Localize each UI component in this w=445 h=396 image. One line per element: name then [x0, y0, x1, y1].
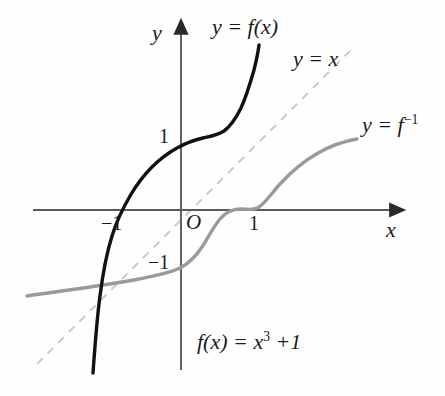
- origin-label: O: [186, 212, 201, 233]
- equation-lhs: f(x) = x: [197, 329, 263, 354]
- equation-annotation: f(x) = x3 +1: [197, 330, 301, 353]
- x-tick-one: 1: [249, 213, 259, 233]
- equation-tail: +1: [270, 329, 301, 354]
- identity-line-annotation: y = x: [293, 48, 338, 70]
- curve-f-inverse-annotation: y = f−1: [362, 113, 418, 136]
- identity-line-y-equals-x: [37, 49, 352, 364]
- y-axis-label: y: [152, 22, 162, 44]
- y-tick-one: 1: [159, 126, 169, 146]
- y-tick-minus-one: −1: [148, 252, 169, 272]
- x-axis-label: x: [386, 219, 396, 241]
- curve-f-inverse-annotation-text: y = f: [362, 112, 404, 137]
- x-tick-minus-one: −1: [101, 213, 122, 233]
- curve-f-annotation: y = f(x): [212, 16, 278, 38]
- equation-exponent: 3: [263, 329, 270, 344]
- curve-f-inverse: [27, 190, 268, 295]
- function-graph-figure: y x O −1 1 1 −1 y = f(x) y = x y = f−1 f…: [0, 0, 445, 396]
- curve-f-inverse-exponent: −1: [404, 112, 419, 127]
